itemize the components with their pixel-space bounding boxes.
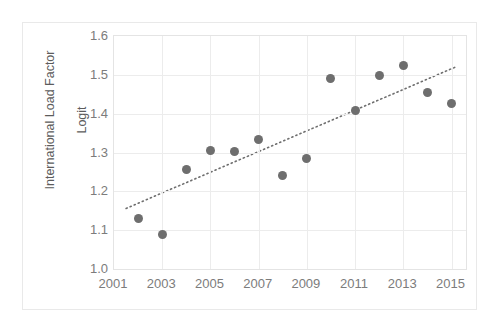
x-axis-tick-label: 2011 bbox=[340, 277, 368, 291]
gridline-horizontal bbox=[114, 114, 466, 115]
data-point bbox=[326, 74, 335, 83]
gridline-horizontal bbox=[114, 75, 466, 76]
gridline-vertical bbox=[403, 36, 404, 269]
plot-area bbox=[113, 35, 467, 270]
x-axis-tick-labels: 20012003200520072009201120132015 bbox=[0, 277, 500, 297]
data-point bbox=[230, 147, 239, 156]
data-point bbox=[134, 214, 143, 223]
gridline-vertical bbox=[307, 36, 308, 269]
y-axis-tick-label: 1.5 bbox=[70, 67, 108, 80]
chart-figure: International Load Factor Logit 1.01.11.… bbox=[0, 0, 500, 323]
gridline-horizontal bbox=[114, 191, 466, 192]
y-axis-title-line1: International Load Factor bbox=[43, 51, 57, 190]
x-axis-tick-label: 2007 bbox=[243, 277, 272, 291]
gridline-horizontal bbox=[114, 153, 466, 154]
x-axis-tick-label: 2013 bbox=[388, 277, 417, 291]
y-axis-tick-label: 1.3 bbox=[70, 145, 108, 158]
data-point bbox=[182, 165, 191, 174]
gridline-horizontal bbox=[114, 230, 466, 231]
y-axis-tick-label: 1.2 bbox=[70, 184, 108, 197]
gridline-vertical bbox=[452, 36, 453, 269]
data-point bbox=[254, 135, 263, 144]
y-axis-tick-labels: 1.01.11.21.31.41.51.6 bbox=[70, 0, 108, 323]
data-point bbox=[206, 146, 215, 155]
data-point bbox=[278, 171, 287, 180]
cropped-title bbox=[70, 0, 430, 5]
y-axis-tick-label: 1.1 bbox=[70, 223, 108, 236]
x-axis-tick-label: 2003 bbox=[147, 277, 176, 291]
x-axis-tick-label: 2001 bbox=[99, 277, 128, 291]
data-point bbox=[375, 71, 384, 80]
gridline-vertical bbox=[355, 36, 356, 269]
y-axis-tick-label: 1.0 bbox=[70, 262, 108, 275]
x-axis-tick-label: 2009 bbox=[291, 277, 320, 291]
y-axis-tick-label: 1.6 bbox=[70, 29, 108, 42]
data-point bbox=[399, 61, 408, 70]
gridline-vertical bbox=[259, 36, 260, 269]
data-point bbox=[423, 88, 432, 97]
x-axis-tick-label: 2015 bbox=[436, 277, 465, 291]
y-axis-tick-label: 1.4 bbox=[70, 106, 108, 119]
data-point bbox=[158, 230, 167, 239]
data-point bbox=[447, 99, 456, 108]
x-axis-tick-label: 2005 bbox=[195, 277, 224, 291]
data-point bbox=[302, 154, 311, 163]
